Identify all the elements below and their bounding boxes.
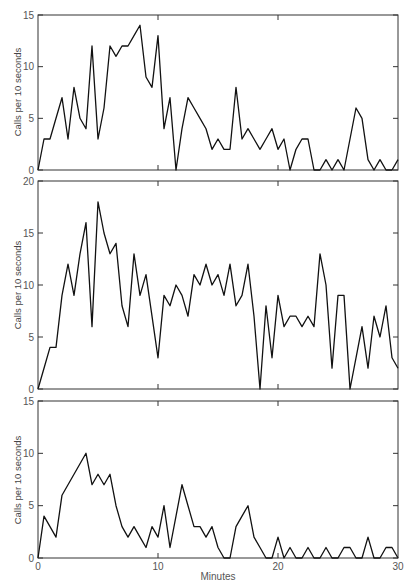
x-tick-label: 0: [35, 561, 41, 572]
x-tick-label: 10: [152, 561, 164, 572]
y-tick-label: 0: [28, 384, 34, 395]
panel-middle: 05101520 Calls per 10 seconds: [12, 176, 398, 395]
y-tick-label: 0: [28, 553, 34, 564]
y-tick-label: 10: [23, 448, 35, 459]
panel-middle-frame: [38, 181, 398, 389]
panel-bottom-ylabel: Calls per 10 seconds: [12, 435, 23, 524]
panel-bottom: 051015 0102030 Calls per 10 seconds Minu…: [12, 396, 404, 583]
panel-bottom-frame: [38, 401, 398, 558]
panel-top-ylabel: Calls per 10 seconds: [12, 47, 23, 136]
y-tick-label: 15: [23, 396, 35, 407]
y-tick-label: 5: [28, 113, 34, 124]
x-axis-label: Minutes: [200, 571, 235, 582]
y-tick-label: 5: [28, 500, 34, 511]
chart-canvas: 051015 Calls per 10 seconds 05101520 Cal…: [0, 0, 414, 587]
panel-bottom-series: [38, 453, 398, 558]
y-tick-label: 10: [23, 61, 35, 72]
x-tick-label: 20: [272, 561, 284, 572]
y-tick-label: 15: [23, 228, 35, 239]
panel-top-series: [38, 25, 398, 170]
panel-top: 051015 Calls per 10 seconds: [12, 10, 398, 176]
y-tick-label: 10: [23, 280, 35, 291]
panel-top-frame: [38, 15, 398, 170]
panel-middle-ylabel: Calls per 10 seconds: [12, 240, 23, 329]
y-tick-label: 5: [28, 332, 34, 343]
y-tick-label: 15: [23, 10, 35, 21]
x-tick-label: 30: [392, 561, 404, 572]
y-tick-label: 20: [23, 176, 35, 187]
y-tick-label: 0: [28, 165, 34, 176]
panel-middle-series: [38, 202, 398, 389]
